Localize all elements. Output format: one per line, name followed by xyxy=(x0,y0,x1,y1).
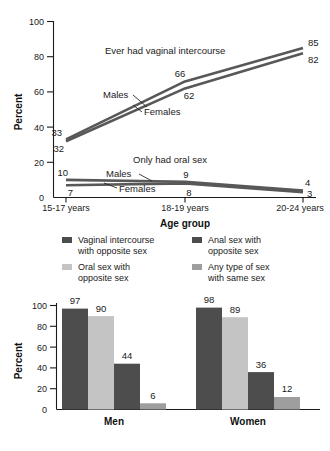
bar-women-oral xyxy=(222,317,248,409)
y-tick-label-40: 40 xyxy=(34,123,44,133)
data-label-oral-females-15-17: 7 xyxy=(68,187,73,198)
legend-label-oral-sex-line1: Oral sex with xyxy=(78,262,130,272)
data-label-oral-males-18-19: 9 xyxy=(183,169,188,180)
y-tick-label-60: 60 xyxy=(34,87,44,97)
bar-y-tick-label-20: 20 xyxy=(37,384,47,394)
legend-label-any-type-same-sex-line2: with same sex xyxy=(207,273,266,283)
bar-women-anal xyxy=(248,372,274,409)
legend-label-any-type-same-sex-line1: Any type of sex xyxy=(208,262,270,272)
y-tick-label-0: 0 xyxy=(39,193,44,203)
bar-category-label-men: Men xyxy=(104,416,124,427)
legend-label-vaginal-intercourse-line2: with opposite sex xyxy=(77,246,148,256)
annotation-females-vaginal: Females xyxy=(144,106,181,117)
data-label-females-15-17: 32 xyxy=(53,143,64,154)
bar-value-men-same-sex: 6 xyxy=(150,390,155,401)
x-tick-label-20-24: 20-24 years xyxy=(276,203,324,213)
bar-value-men-anal: 44 xyxy=(122,350,133,361)
legend-label-oral-sex-line2: opposite sex xyxy=(78,273,129,283)
data-label-oral-females-20-24: 3 xyxy=(307,188,312,199)
y-tick-label-100: 100 xyxy=(29,17,44,27)
bar-chart-panel: Vaginal intercourse with opposite sex An… xyxy=(0,231,330,451)
data-label-males-20-24: 85 xyxy=(308,37,319,48)
legend-swatch-vaginal-intercourse xyxy=(62,237,72,243)
y-tick-label-20: 20 xyxy=(34,158,44,168)
annotation-females-oral: Females xyxy=(119,183,156,194)
bar-category-label-women: Women xyxy=(230,416,266,427)
legend-label-anal-sex-line1: Anal sex with xyxy=(208,235,261,245)
bar-y-tick-label-60: 60 xyxy=(37,343,47,353)
bar-men-oral xyxy=(88,316,114,409)
bar-value-women-oral: 89 xyxy=(230,304,241,315)
bar-men-anal xyxy=(114,364,140,410)
data-label-females-20-24: 82 xyxy=(308,54,319,65)
data-label-oral-females-18-19: 8 xyxy=(186,187,191,198)
legend-label-anal-sex-line2: opposite sex xyxy=(208,246,259,256)
annotation-males-oral: Males xyxy=(106,168,132,179)
bar-value-women-anal: 36 xyxy=(256,359,267,370)
legend-swatch-anal-sex xyxy=(192,237,202,243)
line-chart-panel: Percent 100 80 60 40 20 0 15-17 years 18… xyxy=(0,0,330,232)
bar-y-tick-label-100: 100 xyxy=(32,301,47,311)
bar-men-same-sex xyxy=(140,403,166,409)
annotation-males-vaginal: Males xyxy=(103,89,129,100)
bar-value-women-vaginal: 98 xyxy=(204,294,215,305)
bar-women-vaginal xyxy=(196,308,222,410)
bar-men-vaginal xyxy=(62,309,88,410)
x-tick-label-15-17: 15-17 years xyxy=(42,203,90,213)
bar-value-women-same-sex: 12 xyxy=(282,383,293,394)
bar-y-tick-label-40: 40 xyxy=(37,363,47,373)
bar-value-men-oral: 90 xyxy=(96,303,107,314)
bar-y-tick-label-0: 0 xyxy=(42,405,47,415)
bar-women-same-sex xyxy=(274,397,300,410)
data-label-oral-males-20-24: 4 xyxy=(305,177,310,188)
line-chart-x-axis-label: Age group xyxy=(160,218,210,229)
legend-label-vaginal-intercourse-line1: Vaginal intercourse xyxy=(78,235,154,245)
legend-swatch-oral-sex xyxy=(62,264,72,270)
x-tick-label-18-19: 18-19 years xyxy=(161,203,209,213)
data-label-males-15-17: 33 xyxy=(51,127,62,138)
legend-swatch-any-type-same-sex xyxy=(192,264,202,270)
annotation-ever-had-vaginal-intercourse: Ever had vaginal intercourse xyxy=(105,45,225,56)
data-label-females-18-19: 62 xyxy=(184,90,195,101)
bar-chart-y-axis-label: Percent xyxy=(13,342,24,379)
y-tick-label-80: 80 xyxy=(34,52,44,62)
figure-container: Percent 100 80 60 40 20 0 15-17 years 18… xyxy=(0,0,330,451)
line-chart-y-axis-label: Percent xyxy=(13,93,24,130)
annotation-only-had-oral-sex: Only had oral sex xyxy=(133,154,207,165)
bar-value-men-vaginal: 97 xyxy=(70,295,81,306)
data-label-oral-males-15-17: 10 xyxy=(57,167,68,178)
bar-y-tick-label-80: 80 xyxy=(37,322,47,332)
data-label-males-18-19: 66 xyxy=(175,68,186,79)
